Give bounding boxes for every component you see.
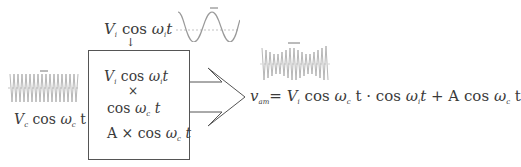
cos-text: cos <box>121 68 144 84</box>
modulating-waveform <box>176 0 240 42</box>
modulating-signal-label: Vi cos ωit <box>104 20 172 39</box>
symbol-omega: ω <box>149 68 160 84</box>
subscript: i <box>298 98 300 106</box>
block-line-3: A × cos ωc t <box>107 125 191 143</box>
down-arrow-icon: ↓ <box>126 36 135 49</box>
subscript: i <box>114 78 116 86</box>
symbol-V: V <box>287 87 298 105</box>
subscript: i <box>115 31 117 39</box>
symbol-omega: ω <box>494 87 506 105</box>
block-line-2: cos ωc t <box>107 100 160 118</box>
plus-sign: + <box>431 87 444 105</box>
symbol-A: A <box>448 87 459 105</box>
subscript: c <box>24 121 28 129</box>
symbol-t: t <box>355 87 361 105</box>
cos-text: cos <box>464 87 489 105</box>
subscript: c <box>347 98 351 106</box>
output-arrow-icon <box>189 58 249 138</box>
symbol-omega: ω <box>406 87 418 105</box>
symbol-t: t <box>80 111 86 127</box>
carrier-signal-label: Vc cos ωc t → <box>14 111 100 129</box>
subscript: c <box>72 121 76 129</box>
subscript: am <box>258 98 269 106</box>
cos-text: cos <box>376 87 401 105</box>
symbol-omega: ω <box>166 125 177 141</box>
cos-text: cos <box>305 87 330 105</box>
cos-text: cos <box>33 111 56 127</box>
symbol-V: V <box>14 111 24 127</box>
symbol-omega: ω <box>135 100 146 116</box>
symbol-A: A <box>107 125 117 141</box>
cos-text: cos <box>138 125 161 141</box>
cos-text: cos <box>107 100 130 116</box>
output-equation: vam= Vi cos ωc t · cos ωit + A cos ωc t <box>250 87 521 106</box>
am-output-waveform <box>260 40 332 80</box>
symbol-omega: ω <box>60 111 71 127</box>
symbol-t: t <box>166 20 172 38</box>
symbol-V: V <box>104 68 114 84</box>
carrier-waveform <box>8 70 80 104</box>
subscript: c <box>177 135 181 143</box>
subscript: c <box>146 110 150 118</box>
subscript: c <box>506 98 510 106</box>
symbol-omega: ω <box>152 20 164 38</box>
equals-sign: = <box>269 87 282 105</box>
symbol-t: t <box>162 68 168 84</box>
dot-operator: · <box>366 87 371 105</box>
symbol-omega: ω <box>334 87 346 105</box>
symbol-V: V <box>104 20 115 38</box>
multiply-sign: × <box>128 84 138 98</box>
symbol-t: t <box>420 87 426 105</box>
symbol-t: t <box>155 100 161 116</box>
symbol-t: t <box>515 87 521 105</box>
multiply-sign: × <box>122 125 134 141</box>
